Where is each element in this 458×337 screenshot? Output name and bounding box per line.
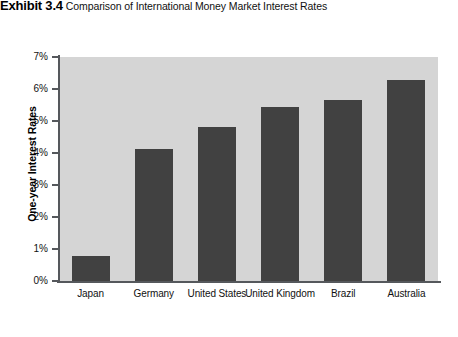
y-axis-tick — [52, 120, 59, 122]
y-axis-tick — [52, 216, 59, 218]
y-axis-tick — [52, 248, 59, 250]
bar — [387, 80, 425, 281]
y-axis-tick — [52, 88, 59, 90]
x-axis-category-label: Australia — [366, 288, 446, 300]
bars-layer — [59, 57, 438, 281]
y-axis-tick — [52, 152, 59, 154]
y-axis-tick — [52, 56, 59, 58]
y-axis-tick-label: 0% — [20, 276, 48, 286]
bar-chart: 7%6%5%4%3%2%1%0% One-year Interest Rates… — [0, 0, 458, 337]
x-axis-line — [57, 281, 441, 283]
bar — [135, 149, 173, 281]
bar — [72, 256, 110, 281]
y-axis-title: One-year Interest Rates — [26, 84, 38, 244]
bar — [198, 127, 236, 281]
y-axis-tick — [52, 184, 59, 186]
y-axis-tick-label: 7% — [20, 52, 48, 62]
bar — [261, 107, 299, 281]
y-axis-tick-label: 1% — [20, 244, 48, 254]
bar — [324, 100, 362, 281]
y-axis-tick — [52, 280, 59, 282]
